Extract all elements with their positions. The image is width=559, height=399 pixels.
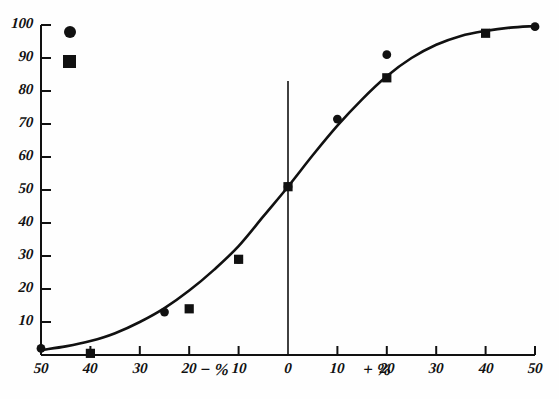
data-point-circle bbox=[333, 115, 342, 124]
y-tick-label: 90 bbox=[0, 48, 34, 65]
legend-square-marker bbox=[63, 55, 76, 68]
data-point-square bbox=[185, 304, 194, 313]
data-point-circle bbox=[160, 308, 169, 317]
x-axis-negative-label: − % bbox=[199, 360, 229, 380]
x-tick-label: 50 bbox=[512, 360, 557, 377]
x-tick-label: 40 bbox=[68, 360, 113, 377]
y-tick-label: 30 bbox=[0, 246, 34, 263]
x-tick-label: 40 bbox=[463, 360, 508, 377]
x-tick-label: 50 bbox=[18, 360, 63, 377]
y-tick-label: 10 bbox=[0, 312, 34, 329]
data-point-circle bbox=[531, 22, 540, 31]
y-tick-label: 70 bbox=[0, 114, 34, 131]
data-point-square bbox=[86, 349, 95, 358]
x-tick-label: 30 bbox=[414, 360, 459, 377]
data-point-square bbox=[234, 255, 243, 264]
x-axis-positive-label: + % bbox=[362, 360, 392, 380]
data-point-square bbox=[382, 73, 391, 82]
legend-circle-marker bbox=[64, 26, 76, 38]
data-point-square bbox=[283, 182, 292, 191]
y-axis-ticks bbox=[41, 25, 51, 322]
y-tick-label: 80 bbox=[0, 81, 34, 98]
y-tick-label: 100 bbox=[0, 15, 34, 32]
y-tick-label: 50 bbox=[0, 180, 34, 197]
x-tick-label: 0 bbox=[265, 360, 310, 377]
data-point-circle bbox=[37, 344, 46, 353]
chart-canvas bbox=[0, 0, 559, 399]
data-point-square bbox=[481, 29, 490, 38]
y-tick-label: 40 bbox=[0, 213, 34, 230]
x-tick-label: 30 bbox=[117, 360, 162, 377]
data-point-circle bbox=[382, 50, 391, 59]
y-tick-label: 60 bbox=[0, 147, 34, 164]
x-tick-label: 10 bbox=[315, 360, 360, 377]
y-tick-label: 20 bbox=[0, 279, 34, 296]
chart-figure: 1020304050607080901005040302010010203040… bbox=[0, 0, 559, 399]
